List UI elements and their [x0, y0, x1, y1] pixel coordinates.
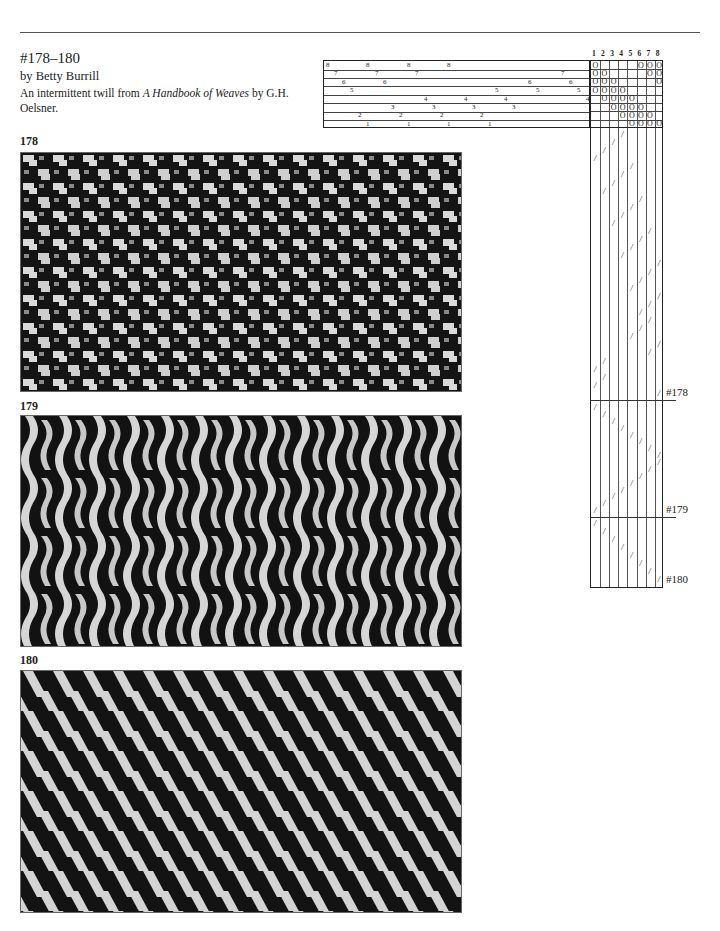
treadling-mark: /	[594, 366, 596, 374]
tieup-tie-mark: O	[593, 87, 599, 95]
tieup-tie-mark: O	[638, 62, 644, 70]
treadling-mark: /	[612, 139, 614, 147]
treadling-mark: /	[603, 528, 605, 536]
threading-mark: 1	[447, 120, 451, 128]
threading-mark: 2	[440, 111, 444, 119]
treadling-mark: /	[649, 445, 651, 453]
section-label: #179	[666, 503, 688, 515]
treadling-mark: /	[621, 252, 623, 260]
threading-mark: 4	[424, 95, 428, 103]
treadling-mark: /	[594, 404, 596, 412]
book-title: A Handbook of Weaves	[143, 87, 249, 99]
treadling-mark: /	[621, 425, 623, 433]
threading-mark: 3	[432, 103, 436, 111]
treadling-mark: /	[640, 560, 642, 568]
tieup-tie-mark: O	[620, 112, 626, 120]
treadling-mark: /	[594, 155, 596, 163]
threading-mark: 5	[350, 86, 354, 94]
fabric-swatch-178	[20, 152, 462, 392]
fabric-image-180	[21, 671, 462, 913]
treadle-number: 6	[638, 49, 642, 58]
treadling-mark: /	[594, 520, 596, 528]
threading-mark: 4	[504, 95, 508, 103]
threading-mark: 5	[577, 86, 581, 94]
threading-mark: 7	[561, 69, 565, 77]
threading-mark: 7	[375, 69, 379, 77]
treadling-column-line	[600, 128, 601, 587]
tieup-tie-mark: O	[611, 95, 617, 103]
treadling-mark: /	[640, 277, 642, 285]
treadling-mark: /	[640, 236, 642, 244]
treadling-mark: /	[640, 438, 642, 446]
tieup-tie-mark: O	[602, 95, 608, 103]
treadling-mark: /	[630, 552, 632, 560]
treadling-mark: /	[649, 349, 651, 357]
top-rule	[20, 32, 700, 33]
tieup-tie-mark: O	[620, 95, 626, 103]
fabric-swatch-179	[20, 415, 462, 647]
treadle-number: 4	[619, 49, 623, 58]
treadling-mark: /	[603, 358, 605, 366]
threading-mark: 2	[358, 111, 362, 119]
byline: by Betty Burrill	[20, 69, 99, 84]
treadle-number: 7	[647, 49, 651, 58]
treadling-mark: /	[649, 301, 651, 309]
tieup-tie-mark: O	[611, 104, 617, 112]
threading-mark: 6	[383, 78, 387, 86]
threading-mark: 3	[472, 103, 476, 111]
treadling-mark: /	[603, 411, 605, 419]
treadling-mark: /	[612, 536, 614, 544]
treadling-column-line	[637, 128, 638, 587]
treadling-mark: /	[649, 269, 651, 277]
treadling-mark: /	[603, 500, 605, 508]
treadling-mark: /	[658, 341, 660, 349]
threading-mark: 6	[342, 78, 346, 86]
section-divider	[590, 517, 676, 518]
treadling-mark: /	[658, 459, 660, 467]
threading-mark: 2	[399, 111, 403, 119]
threading-mark: 5	[495, 86, 499, 94]
treadling-column-line	[646, 128, 647, 587]
tieup-tie-mark: O	[629, 95, 635, 103]
treadle-number: 1	[592, 49, 596, 58]
page-title: #178–180	[20, 50, 80, 67]
treadling-mark: /	[640, 325, 642, 333]
treadling-mark: /	[621, 131, 623, 139]
treadling-mark: /	[603, 147, 605, 155]
tieup-row-line	[591, 103, 662, 104]
treadle-number: 2	[601, 49, 605, 58]
treadling-mark: /	[594, 382, 596, 390]
treadling-mark: /	[630, 333, 632, 341]
treadling-mark: /	[612, 493, 614, 501]
threading-mark: 1	[407, 120, 411, 128]
threading-mark: 3	[391, 103, 395, 111]
treadling-column-line	[618, 128, 619, 587]
treadle-number: 8	[656, 49, 660, 58]
swatch-label-180: 180	[20, 653, 38, 668]
fabric-image-179	[21, 416, 462, 647]
threading-mark: 4	[586, 95, 590, 103]
treadling-mark: /	[630, 480, 632, 488]
threading-mark: 1	[488, 120, 492, 128]
treadling-column-line	[609, 128, 610, 587]
threading-mark: 8	[447, 61, 451, 69]
treadling-mark: /	[630, 432, 632, 440]
section-label: #178	[666, 386, 688, 398]
threading-mark: 5	[536, 86, 540, 94]
description: An intermittent twill from A Handbook of…	[20, 86, 320, 116]
treadling-mark: /	[630, 163, 632, 171]
threading-mark: 3	[512, 103, 516, 111]
section-divider	[590, 400, 676, 401]
threading-mark: 6	[569, 78, 573, 86]
threading-draft: 88887777666655554444333322221111	[323, 60, 590, 128]
section-label: #180	[666, 573, 688, 585]
threading-mark: 8	[326, 61, 330, 69]
treadling-mark: /	[658, 260, 660, 268]
treadling-mark: /	[649, 466, 651, 474]
threading-mark: 6	[528, 78, 532, 86]
tieup-tie-mark: O	[656, 78, 662, 86]
treadling-mark: /	[612, 418, 614, 426]
fabric-image-178	[21, 153, 462, 392]
treadling-mark: /	[630, 285, 632, 293]
treadling-mark: /	[640, 196, 642, 204]
